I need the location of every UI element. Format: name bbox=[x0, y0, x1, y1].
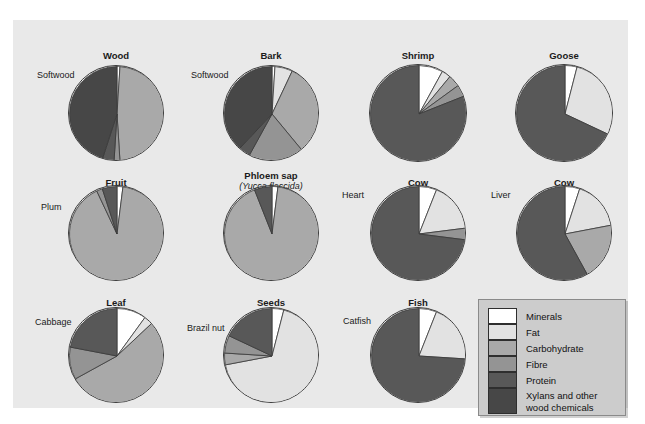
legend-item: Carbohydrate bbox=[488, 340, 597, 356]
pie-side-label: Softwood bbox=[191, 70, 229, 80]
legend-color-swatch bbox=[488, 388, 517, 414]
legend-color-swatch bbox=[488, 308, 517, 324]
pie-chart bbox=[223, 185, 319, 281]
pie-chart bbox=[515, 64, 613, 162]
pie-title: Shrimp bbox=[402, 50, 435, 61]
pie-chart bbox=[369, 64, 467, 162]
pie-chart bbox=[223, 65, 319, 161]
legend-color-swatch bbox=[488, 372, 517, 388]
pie-side-label: Softwood bbox=[37, 70, 75, 80]
legend-item: Minerals bbox=[488, 308, 597, 324]
legend-item-label: Minerals bbox=[526, 308, 562, 324]
pie-side-label: Liver bbox=[491, 190, 511, 200]
legend-item: Protein bbox=[488, 372, 597, 388]
pie-chart bbox=[68, 65, 164, 161]
pie-side-label: Catfish bbox=[343, 316, 371, 326]
pie-title: Wood bbox=[103, 50, 129, 61]
pie-chart bbox=[68, 307, 164, 403]
pie-chart bbox=[223, 307, 319, 403]
pie-side-label: Plum bbox=[41, 202, 62, 212]
cropped-caption-text bbox=[0, 0, 645, 9]
legend-item: Xylans and other wood chemicals bbox=[488, 388, 597, 414]
legend-item-label: Protein bbox=[526, 372, 556, 388]
legend-item-label: Xylans and other wood chemicals bbox=[526, 388, 597, 414]
legend-box: MineralsFatCarbohydrateFibreProteinXylan… bbox=[478, 299, 626, 416]
legend-item: Fat bbox=[488, 324, 597, 340]
legend-item-list: MineralsFatCarbohydrateFibreProteinXylan… bbox=[488, 308, 597, 414]
pie-side-label: Heart bbox=[342, 190, 364, 200]
pie-title: Goose bbox=[549, 50, 579, 61]
legend-color-swatch bbox=[488, 356, 517, 372]
legend-item-label: Carbohydrate bbox=[526, 340, 584, 356]
pie-side-label: Brazil nut bbox=[187, 323, 225, 333]
legend-color-swatch bbox=[488, 324, 517, 340]
pie-chart bbox=[516, 185, 612, 281]
legend-item: Fibre bbox=[488, 356, 597, 372]
legend-item-label: Fibre bbox=[526, 356, 548, 372]
pie-chart bbox=[68, 185, 164, 281]
pie-chart bbox=[370, 307, 466, 403]
pie-chart bbox=[370, 185, 466, 281]
legend-item-label: Fat bbox=[526, 324, 540, 340]
figure-panel: WoodSoftwoodBarkSoftwoodShrimpGooseFruit… bbox=[13, 20, 628, 408]
legend-color-swatch bbox=[488, 340, 517, 356]
pie-side-label: Cabbage bbox=[35, 317, 72, 327]
pie-title: Phloem sap bbox=[244, 170, 297, 181]
pie-slice bbox=[117, 67, 164, 161]
pie-title: Bark bbox=[260, 50, 281, 61]
